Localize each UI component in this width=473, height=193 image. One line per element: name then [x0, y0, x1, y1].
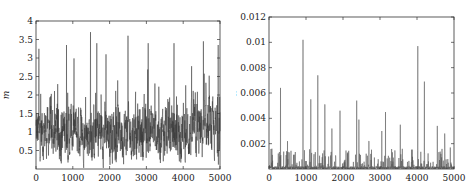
y-axis-label: λ [236, 90, 238, 97]
axes-frame [269, 17, 454, 169]
y-tick-label: 3 [27, 53, 33, 63]
y-tick-label: 4 [27, 16, 33, 26]
y-tick-label: 0.01 [246, 37, 266, 47]
y-tick-label: 3.5 [19, 35, 34, 45]
m-trace-plot: 0100020003000400050000.511.522.533.54m [0, 0, 236, 193]
y-tick-label: 1.5 [19, 109, 34, 119]
y-axis-label: m [1, 91, 11, 100]
trace-series [269, 40, 454, 169]
x-tick-label: 2000 [332, 173, 355, 183]
x-tick-label: 1000 [61, 173, 84, 183]
y-tick-label: 0.008 [240, 63, 266, 73]
trace-series [36, 32, 220, 168]
y-tick-label: 0.012 [240, 12, 266, 22]
x-tick-label: 5000 [443, 173, 466, 183]
x-tick-label: 0 [33, 173, 39, 183]
y-tick-label: 2.5 [19, 72, 34, 82]
y-tick-label: 0.004 [240, 113, 266, 123]
x-tick-label: 3000 [369, 173, 392, 183]
x-tick-label: 5000 [209, 173, 232, 183]
y-tick-label: 0.006 [240, 88, 266, 98]
x-tick-label: 4000 [406, 173, 429, 183]
m-trace-chart: 0100020003000400050000.511.522.533.54m [0, 0, 236, 193]
y-tick-label: 1 [27, 127, 33, 137]
x-tick-label: 0 [266, 173, 272, 183]
y-tick-label: 0.5 [19, 146, 34, 156]
lambda-trace-chart: 0100020003000400050000.0020.0040.0060.00… [236, 0, 473, 193]
y-tick-label: 0.002 [240, 139, 266, 149]
x-tick-label: 1000 [295, 173, 318, 183]
y-tick-label: 2 [27, 90, 33, 100]
x-tick-label: 2000 [98, 173, 121, 183]
x-tick-label: 4000 [172, 173, 195, 183]
lambda-trace-plot: 0100020003000400050000.0020.0040.0060.00… [236, 0, 473, 193]
x-tick-label: 3000 [135, 173, 158, 183]
